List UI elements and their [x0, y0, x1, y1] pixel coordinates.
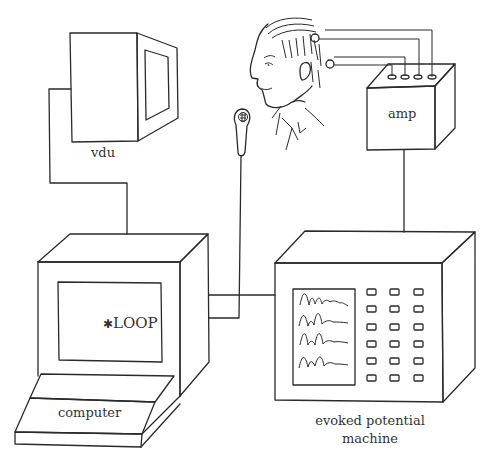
vdu-cable: [49, 89, 127, 234]
vdu-monitor: [70, 33, 178, 142]
electrode-wires: [319, 30, 432, 77]
machine-button: [367, 341, 376, 347]
machine-button: [390, 324, 399, 330]
screen-text: ✱LOOP: [103, 314, 158, 332]
amp-label: amp: [388, 106, 416, 121]
asterisk-icon: ✱: [103, 317, 113, 331]
diagram-canvas: vdu amp ✱LOOP computer evoked potential …: [0, 0, 501, 466]
button-grid: [367, 289, 423, 381]
machine-button: [390, 358, 399, 364]
loop-text: LOOP: [113, 314, 158, 332]
machine-button: [414, 375, 423, 381]
machine-button: [414, 306, 423, 312]
keyboard-top: [30, 374, 174, 402]
subject-head: [250, 18, 334, 150]
diagram-drawing: [0, 0, 501, 466]
machine-button: [367, 306, 376, 312]
machine-button: [367, 358, 376, 364]
machine-button: [367, 324, 376, 330]
machine-button: [390, 289, 399, 295]
machine-button: [414, 341, 423, 347]
evoked-label: evoked potential machine: [315, 412, 425, 448]
machine-button: [390, 341, 399, 347]
machine-button: [414, 358, 423, 364]
electrode-top: [311, 34, 319, 42]
machine-button: [414, 324, 423, 330]
microphone: [209, 109, 250, 318]
machine-button: [367, 289, 376, 295]
machine-button: [390, 306, 399, 312]
machine-button: [367, 375, 376, 381]
machine-button: [390, 375, 399, 381]
electrode-ear: [326, 60, 334, 68]
computer-label: computer: [58, 405, 121, 420]
machine-button: [414, 289, 423, 295]
microphone-cable: [209, 156, 241, 318]
evoked-label-line1: evoked potential: [315, 412, 425, 430]
evoked-label-line2: machine: [315, 430, 425, 448]
vdu-label: vdu: [91, 145, 115, 160]
evoked-potential-machine: [275, 231, 475, 402]
